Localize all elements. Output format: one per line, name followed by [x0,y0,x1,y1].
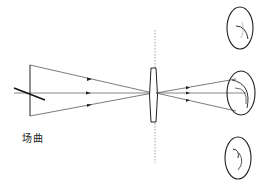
image-curve-top-faint [241,22,243,38]
arrow-icon [186,92,190,95]
arrow-icon [86,92,91,95]
diagram-label: 场曲 [22,130,43,145]
arrow-icon [87,104,92,107]
lower-exit-ray [156,93,236,111]
arrow-icon [186,86,190,90]
image-curve-middle-2 [235,88,246,104]
image-curve-bottom [233,149,238,158]
lens [150,68,158,122]
upper-exit-ray [156,79,236,93]
arrow-icon [87,78,92,82]
image-ellipse-top [227,7,253,49]
image-curve-top [236,26,248,39]
field-curvature-diagram [0,0,261,188]
